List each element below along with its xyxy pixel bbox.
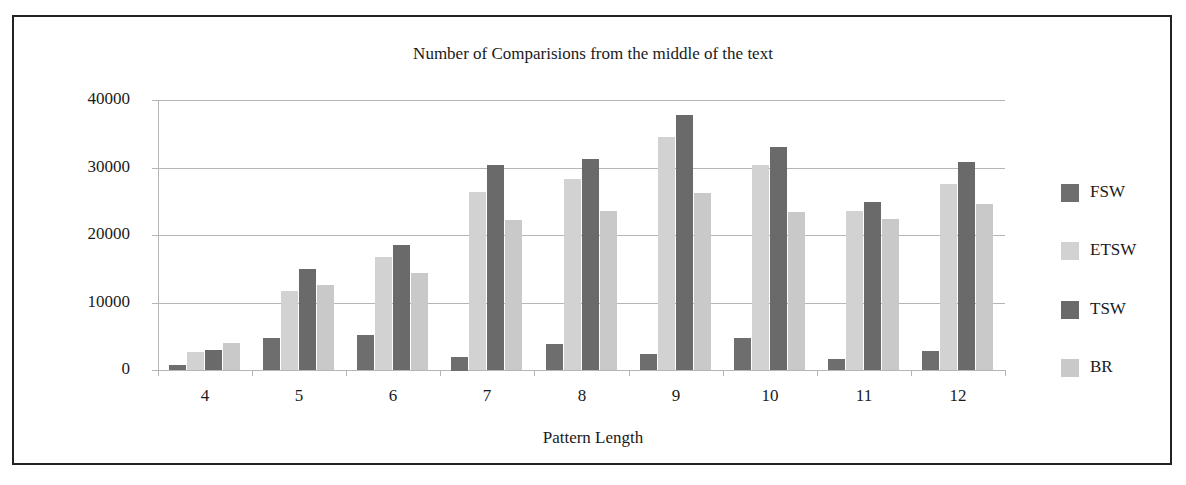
gridline bbox=[152, 168, 1005, 169]
bar-br-6 bbox=[411, 273, 428, 370]
bar-fsw-8 bbox=[546, 344, 563, 370]
bar-br-7 bbox=[505, 220, 522, 370]
x-tick-mark bbox=[158, 370, 159, 376]
x-tick-label: 10 bbox=[740, 386, 800, 406]
bar-tsw-6 bbox=[393, 245, 410, 370]
x-axis-title: Pattern Length bbox=[0, 428, 1186, 448]
chart-title: Number of Comparisions from the middle o… bbox=[0, 44, 1186, 64]
x-tick-mark bbox=[911, 370, 912, 376]
x-tick-label: 6 bbox=[363, 386, 423, 406]
gridline bbox=[152, 100, 1005, 101]
y-tick-label: 40000 bbox=[40, 89, 130, 109]
x-tick-mark bbox=[534, 370, 535, 376]
x-tick-label: 9 bbox=[646, 386, 706, 406]
y-tick-label: 0 bbox=[40, 359, 130, 379]
x-tick-mark bbox=[1005, 370, 1006, 376]
bar-etsw-5 bbox=[281, 291, 298, 370]
bar-fsw-11 bbox=[828, 359, 845, 370]
bar-tsw-12 bbox=[958, 162, 975, 370]
legend-swatch-fsw bbox=[1061, 184, 1079, 202]
bar-fsw-12 bbox=[922, 351, 939, 370]
bar-etsw-8 bbox=[564, 179, 581, 370]
bar-fsw-4 bbox=[169, 365, 186, 370]
x-tick-mark bbox=[440, 370, 441, 376]
bar-fsw-10 bbox=[734, 338, 751, 370]
bar-tsw-7 bbox=[487, 165, 504, 370]
legend-label-etsw: ETSW bbox=[1090, 240, 1136, 260]
x-tick-label: 11 bbox=[834, 386, 894, 406]
x-tick-mark bbox=[723, 370, 724, 376]
x-tick-mark bbox=[252, 370, 253, 376]
bar-fsw-6 bbox=[357, 335, 374, 370]
legend-swatch-etsw bbox=[1061, 242, 1079, 260]
bar-etsw-10 bbox=[752, 165, 769, 370]
y-axis bbox=[158, 100, 159, 376]
bar-br-10 bbox=[788, 212, 805, 370]
bar-etsw-7 bbox=[469, 192, 486, 370]
bar-etsw-4 bbox=[187, 352, 204, 370]
x-tick-mark bbox=[346, 370, 347, 376]
legend-swatch-br bbox=[1061, 359, 1079, 377]
y-tick-label: 20000 bbox=[40, 224, 130, 244]
legend-label-tsw: TSW bbox=[1090, 299, 1126, 319]
bar-br-8 bbox=[600, 211, 617, 370]
bar-tsw-11 bbox=[864, 202, 881, 370]
bar-fsw-7 bbox=[451, 357, 468, 371]
y-tick-label: 10000 bbox=[40, 292, 130, 312]
bar-etsw-11 bbox=[846, 211, 863, 370]
legend-label-br: BR bbox=[1090, 357, 1113, 377]
x-tick-label: 8 bbox=[552, 386, 612, 406]
bar-tsw-9 bbox=[676, 115, 693, 370]
x-tick-label: 7 bbox=[457, 386, 517, 406]
x-tick-mark bbox=[817, 370, 818, 376]
x-tick-label: 5 bbox=[269, 386, 329, 406]
x-tick-label: 4 bbox=[175, 386, 235, 406]
bar-etsw-9 bbox=[658, 137, 675, 370]
bar-br-12 bbox=[976, 204, 993, 370]
bar-tsw-4 bbox=[205, 350, 222, 370]
x-tick-mark bbox=[629, 370, 630, 376]
gridline bbox=[152, 370, 1005, 371]
bar-br-9 bbox=[694, 193, 711, 370]
bar-fsw-9 bbox=[640, 354, 657, 370]
y-tick-label: 30000 bbox=[40, 157, 130, 177]
x-tick-label: 12 bbox=[928, 386, 988, 406]
legend-label-fsw: FSW bbox=[1090, 182, 1125, 202]
bar-tsw-5 bbox=[299, 269, 316, 370]
bar-tsw-8 bbox=[582, 159, 599, 370]
bar-br-5 bbox=[317, 285, 334, 370]
bar-br-4 bbox=[223, 343, 240, 370]
bar-etsw-12 bbox=[940, 184, 957, 370]
legend-swatch-tsw bbox=[1061, 301, 1079, 319]
bar-tsw-10 bbox=[770, 147, 787, 370]
bar-fsw-5 bbox=[263, 338, 280, 370]
bar-br-11 bbox=[882, 219, 899, 370]
bar-etsw-6 bbox=[375, 257, 392, 370]
